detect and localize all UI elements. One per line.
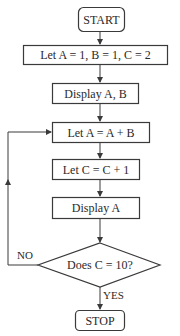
yes-label: YES xyxy=(103,290,124,301)
update-a-label: Let A = A + B xyxy=(52,127,150,139)
no-label: NO xyxy=(17,250,33,261)
display-ab-label: Display A, B xyxy=(52,88,139,100)
increment-c-label: Let C = C + 1 xyxy=(52,164,140,176)
init-label: Let A = 1, B = 1, C = 2 xyxy=(23,49,168,61)
start-label: START xyxy=(78,14,125,26)
decision-label: Does C = 10? xyxy=(50,259,150,271)
stop-label: STOP xyxy=(75,315,125,327)
display-a-label: Display A xyxy=(52,202,140,214)
